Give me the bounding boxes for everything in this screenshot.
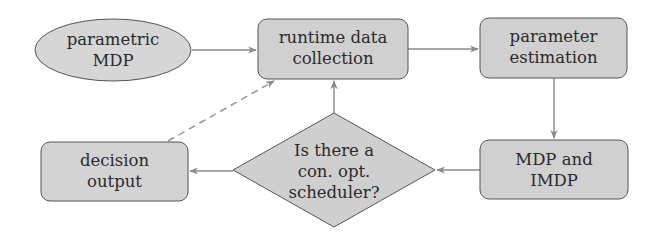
edge-decision-to-runtime-dashed (168, 81, 274, 141)
label-line: IMDP (515, 170, 593, 191)
label-line: output (80, 171, 149, 192)
label-line: runtime data (279, 27, 388, 48)
label-parametric-mdp: parametric MDP (35, 19, 191, 81)
label-line: estimation (509, 47, 597, 68)
label-runtime-data-collection: runtime data collection (258, 18, 408, 78)
label-line: collection (279, 48, 388, 69)
label-line: MDP and (515, 149, 593, 170)
label-line: parameter (509, 26, 597, 47)
label-line: MDP (67, 50, 160, 71)
label-line: decision (80, 150, 149, 171)
label-line: scheduler? (288, 182, 379, 203)
label-parameter-estimation: parameter estimation (480, 17, 627, 77)
label-line: parametric (67, 29, 160, 50)
label-mdp-and-imdp: MDP and IMDP (480, 140, 628, 199)
label-scheduler-check: Is there a con. opt. scheduler? (264, 138, 404, 204)
label-decision-output: decision output (41, 141, 188, 200)
label-line: Is there a (288, 140, 379, 161)
label-line: con. opt. (288, 161, 379, 182)
